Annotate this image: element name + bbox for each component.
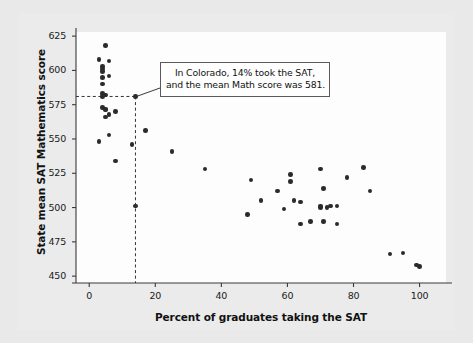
x-tick-label: 100 (405, 290, 435, 301)
colorado-annotation-box: In Colorado, 14% took the SAT, and the m… (160, 62, 330, 97)
data-point (308, 219, 313, 224)
x-tick-label: 60 (272, 290, 302, 301)
data-point (143, 128, 148, 133)
x-tick-label: 80 (339, 290, 369, 301)
y-tick-label: 450 (34, 270, 66, 281)
data-point (288, 179, 293, 184)
data-point (113, 109, 118, 114)
data-point (361, 165, 366, 170)
data-point (97, 57, 102, 62)
data-point (345, 175, 350, 180)
data-point (417, 264, 422, 269)
annotation-guide-lines (76, 96, 135, 283)
annotation-line-1: In Colorado, 14% took the SAT, (166, 67, 324, 79)
y-tick-label: 625 (34, 30, 66, 41)
data-point (170, 149, 175, 154)
x-tick-label: 0 (74, 290, 104, 301)
data-point (100, 75, 105, 80)
data-point (100, 82, 105, 87)
y-axis-title: State mean SAT Mathematics score (35, 42, 47, 262)
callout-leader-line (136, 88, 160, 96)
leader-line-segment (136, 88, 160, 96)
data-point-colorado (133, 94, 138, 99)
data-point (245, 212, 250, 217)
data-point (103, 43, 108, 48)
x-tick-label: 20 (140, 290, 170, 301)
data-point (100, 69, 105, 74)
data-point (113, 159, 118, 164)
annotation-line-2: and the mean Math score was 581. (166, 79, 324, 91)
data-point (100, 94, 105, 99)
data-point (321, 186, 326, 191)
x-axis-title: Percent of graduates taking the SAT (76, 311, 446, 323)
axes-and-data-layer (0, 0, 473, 343)
scatter-plot-figure: 450475500525550575600625 020406080100 St… (0, 0, 473, 343)
data-point (321, 219, 326, 224)
data-point (288, 172, 293, 177)
data-point (318, 205, 323, 210)
x-tick-label: 40 (206, 290, 236, 301)
